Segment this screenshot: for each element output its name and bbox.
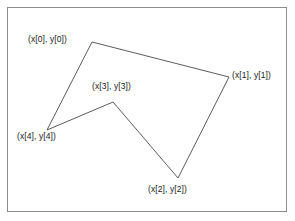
label-vertex-4: (x[4], y[4]) [17, 131, 56, 141]
label-vertex-2: (x[2], y[2]) [148, 184, 187, 194]
label-vertex-3: (x[3], y[3]) [92, 81, 131, 91]
label-vertex-1: (x[1], y[1]) [232, 70, 271, 80]
label-vertex-0: (x[0], y[0]) [28, 34, 67, 44]
figure-root: (x[0], y[0]) (x[1], y[1]) (x[2], y[2]) (… [0, 0, 295, 221]
polygon-shape [47, 42, 229, 178]
